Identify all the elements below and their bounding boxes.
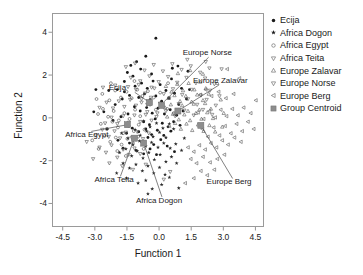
- tri-down-open-icon: [268, 78, 279, 89]
- x-tick-label: 3.0: [217, 232, 229, 242]
- x-tick-label: 4.5: [250, 232, 262, 242]
- legend-label: Africa Dogon: [280, 28, 332, 38]
- tri-up-icon: [268, 65, 279, 76]
- annotation-label: Africa Dogon: [136, 196, 182, 205]
- legend-label: Europe Norse: [280, 78, 336, 88]
- data-point: [272, 44, 275, 47]
- data-point: [271, 56, 275, 60]
- annotation-label: Africa Teita: [94, 175, 133, 184]
- legend-item-group-centroid[interactable]: Group Centroid: [268, 102, 363, 115]
- tri-left-icon: [268, 90, 279, 101]
- data-point: [271, 106, 276, 111]
- y-tick-label: 4: [20, 27, 47, 37]
- annotation-label: Ecija: [109, 83, 126, 92]
- x-tick-label: -1.5: [120, 232, 135, 242]
- x-tick-label: 0.0: [153, 232, 165, 242]
- data-point: [271, 82, 275, 86]
- legend-label: Europe Berg: [280, 91, 331, 101]
- legend-item-africa-egypt[interactable]: Africa Egypt: [268, 39, 363, 52]
- data-point: [271, 68, 275, 72]
- open-circle-icon: [268, 40, 279, 51]
- x-tick-label: -4.5: [55, 232, 70, 242]
- data-point: [271, 94, 275, 98]
- legend-item-europe-zalavar[interactable]: Europe Zalavar: [268, 64, 363, 77]
- legend-label: Group Centroid: [280, 103, 342, 113]
- y-tick-label: -2: [20, 156, 47, 166]
- legend-item-africa-teita[interactable]: Africa Teita: [268, 52, 363, 65]
- scatter-plot-figure: Function 1 Function 2 -4.5-3.0-1.50.01.5…: [0, 0, 363, 275]
- legend-item-ecija[interactable]: Ecija: [268, 14, 363, 27]
- annotation-label: Africa Egypt: [65, 130, 108, 139]
- legend: EcijaAfrica DogonAfrica EgyptAfrica Teit…: [268, 14, 363, 115]
- star-icon: [268, 27, 279, 38]
- x-tick-label: -3.0: [88, 232, 103, 242]
- legend-item-africa-dogon[interactable]: Africa Dogon: [268, 27, 363, 40]
- annotation-label: Europe Norse: [183, 48, 232, 57]
- legend-label: Africa Teita: [280, 53, 324, 63]
- data-point: [272, 19, 275, 22]
- y-tick-label: 2: [20, 70, 47, 80]
- annotation-label: Europe Berg: [207, 177, 252, 186]
- legend-label: Europe Zalavar: [280, 66, 342, 76]
- legend-label: Ecija: [280, 15, 300, 25]
- plot-area: [52, 13, 264, 227]
- filled-circle-icon: [268, 15, 279, 26]
- legend-label: Africa Egypt: [280, 40, 329, 50]
- y-tick-label: -4: [20, 198, 47, 208]
- x-axis-title: Function 1: [52, 248, 264, 259]
- legend-item-europe-norse[interactable]: Europe Norse: [268, 77, 363, 90]
- x-tick-label: 1.5: [185, 232, 197, 242]
- tri-down-icon: [268, 53, 279, 64]
- legend-item-europe-berg[interactable]: Europe Berg: [268, 90, 363, 103]
- y-tick-label: 0: [20, 113, 47, 123]
- data-point: [271, 30, 276, 35]
- filled-square-icon: [268, 103, 279, 114]
- annotation-label: Europe Zalavar: [193, 76, 248, 85]
